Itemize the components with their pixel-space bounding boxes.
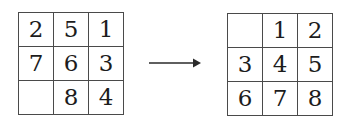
target-grid: 1 2 3 4 5 6 7 8 [227, 13, 333, 116]
table-row: 7 6 3 [19, 47, 124, 81]
source-cell-r2c1: 7 [19, 47, 54, 81]
source-cell-r3c1-empty [19, 81, 54, 115]
table-row: 2 5 1 [19, 13, 124, 47]
source-cell-r2c2: 6 [54, 47, 89, 81]
source-cell-r1c1: 2 [19, 13, 54, 47]
target-cell-r1c2: 1 [263, 14, 298, 48]
source-cell-r2c3: 3 [89, 47, 124, 81]
target-cell-r2c1: 3 [228, 48, 263, 82]
transformation-diagram: 2 5 1 7 6 3 8 4 [0, 0, 342, 125]
target-grid-container: 1 2 3 4 5 6 7 8 [227, 13, 333, 116]
target-cell-r1c1-empty [228, 14, 263, 48]
target-cell-r3c2: 7 [263, 82, 298, 116]
target-cell-r3c1: 6 [228, 82, 263, 116]
target-cell-r2c3: 5 [298, 48, 333, 82]
table-row: 3 4 5 [228, 48, 333, 82]
source-grid-container: 2 5 1 7 6 3 8 4 [18, 12, 124, 115]
source-cell-r3c3: 4 [89, 81, 124, 115]
long-rightwards-arrow-icon [148, 52, 202, 74]
table-row: 6 7 8 [228, 82, 333, 116]
source-grid: 2 5 1 7 6 3 8 4 [18, 12, 124, 115]
target-cell-r2c2: 4 [263, 48, 298, 82]
table-row: 8 4 [19, 81, 124, 115]
target-cell-r1c3: 2 [298, 14, 333, 48]
table-row: 1 2 [228, 14, 333, 48]
source-cell-r1c3: 1 [89, 13, 124, 47]
target-cell-r3c3: 8 [298, 82, 333, 116]
source-cell-r1c2: 5 [54, 13, 89, 47]
source-cell-r3c2: 8 [54, 81, 89, 115]
